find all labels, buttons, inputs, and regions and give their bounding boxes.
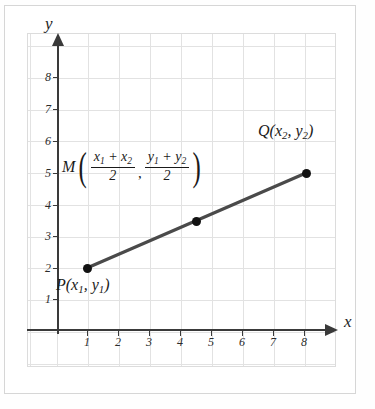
x-tick-label: 8 [296, 335, 312, 350]
midpoint-y-plus: + [159, 149, 175, 164]
y-tick-label: 1 [37, 292, 51, 307]
gridline-vertical [243, 34, 244, 366]
gridline-vertical [30, 34, 31, 366]
plot-grid-area [27, 33, 336, 367]
gridline-horizontal [28, 268, 335, 269]
y-tick-mark [53, 236, 58, 237]
y-tick-label: 5 [37, 166, 51, 181]
midpoint-y-fraction: y1 + y2 2 [145, 150, 189, 183]
y-tick-label: 6 [37, 134, 51, 149]
gridline-horizontal [28, 205, 335, 206]
y-tick-label: 8 [37, 70, 51, 85]
y-tick-label: 7 [37, 102, 51, 117]
gridline-horizontal [28, 46, 335, 47]
midpoint-formula-figure: y x 1 2 3 4 5 6 7 8 1 2 3 4 5 6 7 8 P(x1… [0, 0, 375, 409]
x-axis-arrow-icon [325, 324, 338, 336]
data-point-p [83, 264, 92, 273]
midpoint-open-paren: ( [79, 150, 87, 184]
gridline-vertical [212, 34, 213, 366]
point-q-label: Q(x2, y2) [258, 122, 313, 141]
y-tick-label: 4 [37, 198, 51, 213]
gridline-horizontal [28, 332, 335, 333]
x-tick-label: 5 [203, 335, 219, 350]
point-p-name: P [56, 276, 66, 293]
midpoint-y-num-b-subscript: 2 [181, 156, 186, 166]
midpoint-formula-label: M ( x1 + x2 2 , y1 + y2 2 ) [62, 150, 204, 184]
gridline-horizontal [28, 237, 335, 238]
gridline-vertical [88, 34, 89, 366]
y-tick-mark [53, 173, 58, 174]
midpoint-name: M [62, 158, 75, 176]
point-q-y-var: y [295, 122, 302, 139]
y-tick-mark [53, 109, 58, 110]
point-p-close-paren: ) [104, 276, 109, 293]
midpoint-x-fraction: x1 + x2 2 [91, 150, 135, 183]
x-tick-label: 7 [265, 335, 281, 350]
x-axis-label: x [344, 312, 352, 332]
y-axis-label: y [45, 14, 53, 34]
midpoint-x-denominator: 2 [91, 167, 135, 184]
y-tick-mark [53, 299, 58, 300]
gridline-vertical [150, 34, 151, 366]
point-p-comma: , [84, 276, 92, 293]
midpoint-close-paren: ) [193, 150, 201, 184]
x-tick-label: 4 [172, 335, 188, 350]
gridline-vertical [335, 34, 336, 366]
x-tick-label: 2 [110, 335, 126, 350]
gridline-vertical [305, 34, 306, 366]
x-tick-label: 6 [234, 335, 250, 350]
midpoint-y-denominator: 2 [145, 167, 189, 184]
gridline-vertical [274, 34, 275, 366]
midpoint-x-plus: + [105, 149, 121, 164]
y-tick-mark [53, 205, 58, 206]
midpoint-y-numerator: y1 + y2 [145, 150, 189, 167]
y-tick-mark [53, 268, 58, 269]
midpoint-separator: , [136, 165, 144, 182]
data-point-midpoint [192, 217, 201, 226]
y-tick-mark [53, 141, 58, 142]
gridline-horizontal [28, 364, 335, 365]
gridline-vertical [181, 34, 182, 366]
point-q-x-var: x [275, 122, 282, 139]
point-p-label: P(x1, y1) [56, 276, 110, 295]
y-tick-label: 2 [37, 261, 51, 276]
y-tick-label: 3 [37, 229, 51, 244]
point-q-close-paren: ) [308, 122, 313, 139]
gridline-horizontal [28, 110, 335, 111]
gridline-horizontal [28, 78, 335, 79]
gridline-vertical [119, 34, 120, 366]
x-tick-label: 3 [141, 335, 157, 350]
midpoint-x-numerator: x1 + x2 [91, 150, 135, 167]
x-tick-label: 1 [79, 335, 95, 350]
gridline-horizontal [28, 141, 335, 142]
point-p-y-var: y [92, 276, 99, 293]
data-point-q [302, 169, 311, 178]
y-tick-mark [53, 77, 58, 78]
gridline-horizontal [28, 300, 335, 301]
point-q-name: Q [258, 122, 270, 139]
midpoint-x-num-b-subscript: 2 [127, 156, 132, 166]
y-axis-arrow-icon [52, 33, 64, 46]
